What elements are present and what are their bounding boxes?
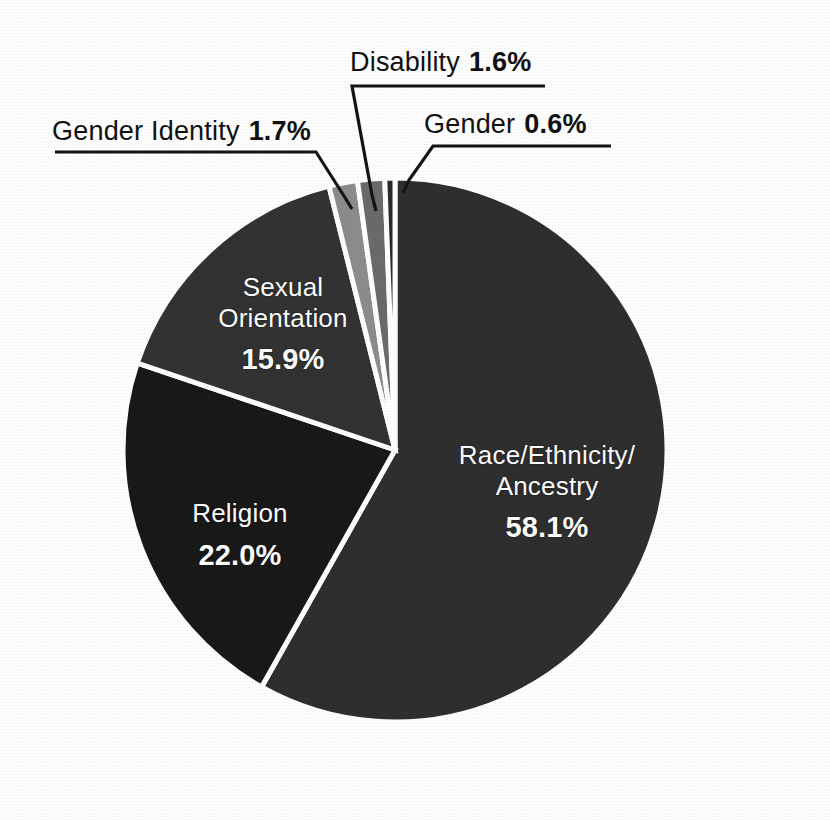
callout-category-disability: Disability <box>350 47 460 77</box>
callout-category-gender-identity: Gender Identity <box>52 116 240 146</box>
slice-value-race: 58.1% <box>432 510 662 544</box>
pie-chart: Gender Identity1.7% Disability1.6% Gende… <box>0 0 830 820</box>
slice-label-religion: Religion 22.0% <box>140 498 340 572</box>
callout-label-gender: Gender0.6% <box>424 110 587 138</box>
slice-label-sexual-orientation: Sexual Orientation 15.9% <box>188 272 378 377</box>
slice-label-race-line2: Ancestry <box>432 471 662 502</box>
slice-label-religion-line1: Religion <box>140 498 340 529</box>
callout-label-disability: Disability1.6% <box>350 48 531 76</box>
callout-label-gender-identity: Gender Identity1.7% <box>52 117 311 145</box>
slice-value-religion: 22.0% <box>140 538 340 572</box>
slice-label-sexual-orientation-line2: Orientation <box>188 303 378 334</box>
slice-value-sexual-orientation: 15.9% <box>188 342 378 376</box>
callout-category-gender: Gender <box>424 109 515 139</box>
callout-value-gender: 0.6% <box>524 109 586 139</box>
slice-label-race-ethnicity-ancestry: Race/Ethnicity/ Ancestry 58.1% <box>432 440 662 545</box>
callout-value-gender-identity: 1.7% <box>249 116 311 146</box>
slice-label-race-line1: Race/Ethnicity/ <box>432 440 662 471</box>
slice-label-sexual-orientation-line1: Sexual <box>188 272 378 303</box>
callout-value-disability: 1.6% <box>469 47 531 77</box>
